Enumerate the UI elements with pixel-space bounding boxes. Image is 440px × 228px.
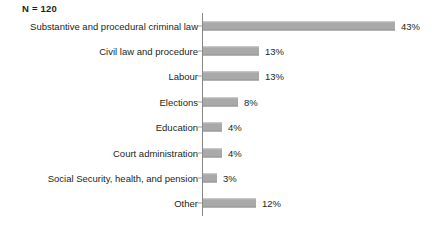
bar <box>203 148 222 157</box>
axis-tick <box>198 25 202 26</box>
bar <box>203 47 259 56</box>
axis-tick <box>198 101 202 102</box>
category-label: Substantive and procedural criminal law <box>30 20 198 31</box>
bar-row: Social Security, health, and pension 3% <box>0 165 440 190</box>
bar-group: 4% <box>203 123 242 132</box>
bar-value-label: 4% <box>228 148 242 157</box>
bar <box>203 199 256 208</box>
bar-group: 3% <box>203 174 237 183</box>
bar <box>203 72 259 81</box>
bar-value-label: 43% <box>401 21 420 30</box>
category-label: Social Security, health, and pension <box>48 173 198 184</box>
bar-group: 13% <box>203 47 284 56</box>
category-label: Education <box>156 122 198 133</box>
bar-value-label: 8% <box>244 97 258 106</box>
bar-group: 4% <box>203 148 242 157</box>
axis-tick <box>198 76 202 77</box>
axis-tick <box>198 152 202 153</box>
bar-chart: N = 120 Substantive and procedural crimi… <box>0 0 440 228</box>
bar-group: 13% <box>203 72 284 81</box>
bar-group: 43% <box>203 21 420 30</box>
bar-value-label: 12% <box>262 199 281 208</box>
bar <box>203 97 238 106</box>
bar <box>203 174 217 183</box>
axis-tick <box>198 178 202 179</box>
bar-value-label: 13% <box>265 72 284 81</box>
bar-group: 8% <box>203 97 258 106</box>
bar-value-label: 4% <box>228 123 242 132</box>
bar-row: Elections 8% <box>0 89 440 114</box>
category-label: Elections <box>159 96 198 107</box>
plot-area: Substantive and procedural criminal law … <box>0 13 440 217</box>
category-label: Court administration <box>113 147 198 158</box>
category-label: Civil law and procedure <box>99 46 198 57</box>
bar-value-label: 3% <box>223 174 237 183</box>
bar <box>203 21 395 30</box>
axis-tick <box>198 127 202 128</box>
bar-row: Labour 13% <box>0 64 440 89</box>
bar-row: Civil law and procedure 13% <box>0 38 440 63</box>
bar-row: Other 12% <box>0 191 440 216</box>
category-label: Labour <box>168 71 198 82</box>
category-label: Other <box>174 198 198 209</box>
axis-tick <box>198 51 202 52</box>
bar-row: Court administration 4% <box>0 140 440 165</box>
bar-row: Substantive and procedural criminal law … <box>0 13 440 38</box>
bar-group: 12% <box>203 199 281 208</box>
axis-tick <box>198 203 202 204</box>
bar-row: Education 4% <box>0 115 440 140</box>
bar-value-label: 13% <box>265 47 284 56</box>
bar <box>203 123 222 132</box>
